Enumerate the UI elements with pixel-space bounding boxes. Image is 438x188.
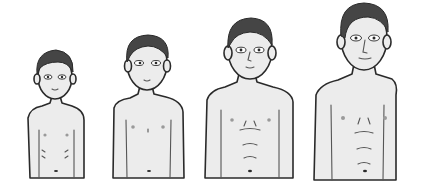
boy-figure-2 — [113, 35, 184, 178]
boy-figure-3 — [205, 18, 293, 178]
growth-stages-illustration: Four cartoon boys, shirtless, shown side… — [0, 0, 438, 188]
illustration-svg: .sk{fill:#ececec;stroke:#2a2a2a;stroke-w… — [0, 0, 438, 188]
boy-figure-4 — [314, 3, 397, 180]
boy-figure-1 — [28, 50, 84, 178]
